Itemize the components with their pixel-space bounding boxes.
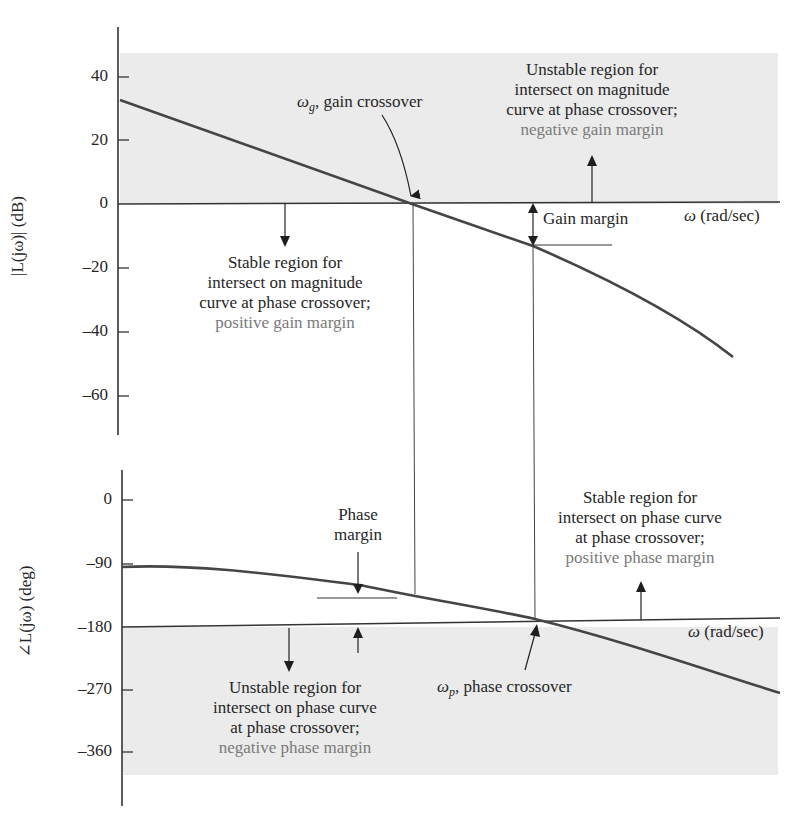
mag-tick-40: 40 (58, 66, 108, 86)
gain-crossover-label: ωg, gain crossover (297, 92, 422, 117)
phase-x-axis-label: ω (rad/sec) (688, 622, 764, 642)
phase-tick-minus180: –180 (62, 617, 112, 637)
magnitude-stable-note: Stable region for intersect on magnitude… (180, 253, 390, 333)
gain-crossover-drop-line (413, 204, 415, 594)
phase-crossover-label: ωp, phase crossover (437, 677, 572, 702)
phase-unstable-note: Unstable region for intersect on phase c… (190, 678, 400, 758)
magnitude-y-axis-label: |L(jω)| (dB) (8, 196, 28, 276)
mag-tick-0: 0 (58, 193, 108, 213)
phase-y-axis-label: ∠L(jω) (deg) (15, 566, 36, 658)
phase-tick-minus270: –270 (62, 679, 112, 699)
phase-tick-minus360: –360 (62, 741, 112, 761)
phase-tick-0: 0 (62, 489, 112, 509)
gain-margin-label: Gain margin (543, 209, 628, 229)
magnitude-unstable-note: Unstable region for intersect on magnitu… (487, 60, 697, 140)
phase-stable-note: Stable region for intersect on phase cur… (535, 488, 745, 568)
phase-margin-label: Phase margin (318, 505, 398, 545)
minus-180-line (122, 618, 780, 627)
phase-tick-minus90: –90 (62, 553, 112, 573)
mag-tick-minus20: –20 (58, 257, 108, 277)
mag-tick-minus60: –60 (58, 385, 108, 405)
magnitude-x-axis-label: ω (rad/sec) (684, 206, 760, 226)
mag-tick-minus40: –40 (58, 321, 108, 341)
mag-tick-20: 20 (58, 130, 108, 150)
